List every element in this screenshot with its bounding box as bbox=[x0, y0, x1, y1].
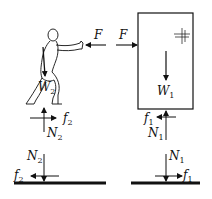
normal-ground-left-label: N2 bbox=[26, 149, 43, 165]
normal-person-label: N2 bbox=[46, 126, 63, 142]
center-of-mass-icon bbox=[174, 28, 190, 44]
friction-box-label: f1 bbox=[143, 111, 154, 127]
normal-ground-right-label: N1 bbox=[168, 149, 185, 165]
force-diagram: W2 F F W1 f1 N1 f2 N2 N2 f2 N1 f1 bbox=[0, 0, 212, 199]
weight-box-label: W1 bbox=[157, 84, 174, 100]
friction-person-label: f2 bbox=[62, 111, 73, 127]
force-on-person-label: F bbox=[93, 28, 103, 42]
friction-ground-left-label: f2 bbox=[13, 168, 24, 184]
weight-person-label: W2 bbox=[38, 80, 55, 96]
force-on-box-label: F bbox=[118, 28, 128, 42]
friction-ground-right-label: f1 bbox=[182, 168, 193, 184]
normal-box-label: N1 bbox=[147, 126, 164, 142]
